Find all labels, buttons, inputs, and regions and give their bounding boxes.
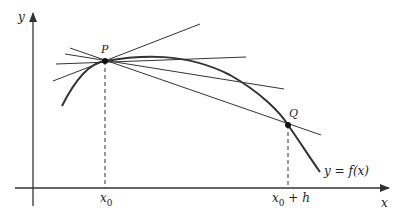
- point-q-label: Q: [289, 107, 298, 120]
- tick-label-x0: x0: [100, 191, 113, 208]
- secant-tangent-diagram: y x P Q x0 x0 + h y = f(x): [0, 0, 406, 216]
- tick-label-x0-plus-h: x0 + h: [272, 191, 310, 208]
- point-p: [102, 58, 108, 64]
- y-axis-label: y: [17, 10, 25, 24]
- point-p-label: P: [100, 43, 109, 56]
- curve-label: y = f(x): [323, 164, 369, 178]
- tangent-line: [56, 57, 246, 64]
- point-q: [285, 122, 291, 128]
- x-axis-label: x: [381, 196, 388, 210]
